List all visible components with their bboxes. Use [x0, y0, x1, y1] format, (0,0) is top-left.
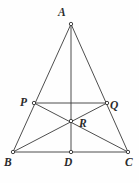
- point-label-a: A: [58, 7, 66, 19]
- point-label-q: Q: [110, 100, 118, 112]
- segment-side-ac: [71, 24, 128, 152]
- point-marker-b: [11, 150, 14, 153]
- point-marker-p: [32, 101, 35, 104]
- point-label-r: R: [79, 118, 87, 130]
- point-marker-q: [105, 101, 108, 104]
- segment-side-ab: [13, 24, 71, 152]
- point-label-b: B: [4, 157, 12, 169]
- point-marker-c: [126, 150, 129, 153]
- point-label-p: P: [20, 97, 27, 109]
- segment-cevian-bq: [13, 103, 107, 152]
- point-marker-r: [69, 119, 72, 122]
- point-marker-d: [69, 150, 72, 153]
- geometry-figure: A P Q R B D C: [0, 0, 139, 183]
- point-label-d: D: [64, 157, 72, 169]
- point-label-c: C: [125, 157, 133, 169]
- point-marker-a: [69, 22, 72, 25]
